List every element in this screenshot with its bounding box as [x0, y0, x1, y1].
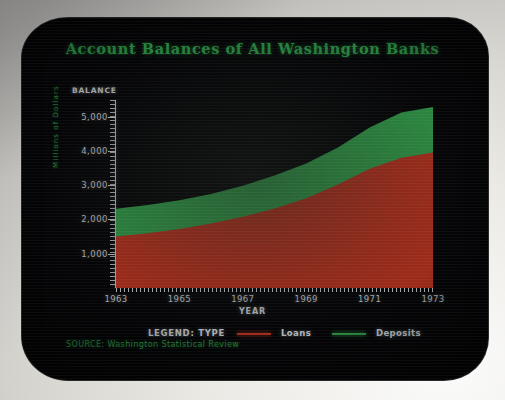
y-tick-label: 2,000 [56, 214, 108, 224]
source-note: SOURCE: Washington Statistical Review [66, 340, 239, 349]
x-axis-tickmarks [116, 288, 433, 292]
y-tick-mark [108, 151, 116, 152]
y-tick-mark [108, 117, 116, 118]
x-tick-label: 1963 [104, 294, 127, 304]
legend-label: Loans [281, 328, 311, 338]
y-tick-mark [108, 185, 116, 186]
x-tick-label: 1973 [421, 294, 444, 304]
y-tick-mark [108, 219, 116, 220]
crt-monitor-photo: Account Balances of All Washington Banks… [0, 0, 505, 400]
legend-title: LEGEND: TYPE [148, 328, 225, 338]
legend-swatch [332, 333, 366, 335]
area-chart-svg [116, 96, 433, 288]
y-tick-label: 1,000 [56, 249, 108, 259]
crt-screen: Account Balances of All Washington Banks… [22, 18, 488, 380]
x-tick-label: 1971 [358, 294, 381, 304]
legend-label: Deposits [376, 328, 421, 338]
y-tick-label: 5,000 [56, 112, 108, 122]
x-tick-label: 1967 [231, 294, 254, 304]
stacked-area-plot [116, 96, 433, 288]
y-axis-tickmarks [110, 100, 115, 288]
y-axis-header-label: BALANCE [72, 86, 117, 95]
y-tick-mark [108, 254, 116, 255]
y-tick-label: 3,000 [56, 180, 108, 190]
x-axis-title: YEAR [22, 307, 488, 316]
x-tick-label: 1965 [168, 294, 191, 304]
legend-swatch [237, 333, 271, 335]
x-tick-label: 1969 [295, 294, 318, 304]
chart-title: Account Balances of All Washington Banks [22, 40, 488, 57]
y-tick-label: 4,000 [56, 146, 108, 156]
